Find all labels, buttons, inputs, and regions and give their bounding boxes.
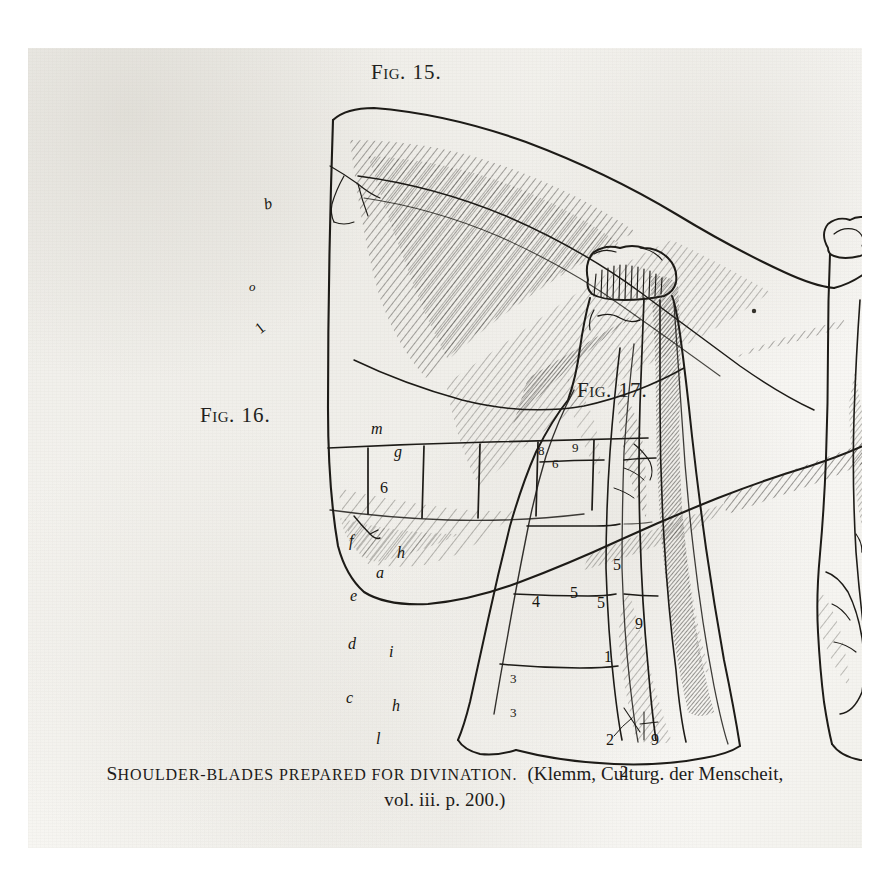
fig16-marker-e: e [350, 588, 357, 604]
figure-caption: SHOULDER-BLADES PREPARED FOR DIVINATION.… [28, 763, 862, 811]
caption-line-2: vol. iii. p. 200.) [28, 789, 862, 811]
fig16-label-initial: F [200, 403, 212, 427]
fig17-marker-5-right: 5 [597, 595, 605, 611]
fig15-label-initial: F [371, 60, 383, 84]
fig17-marker-5-upper: 5 [613, 557, 621, 573]
fig17-label-smallcaps: IG [589, 384, 606, 400]
fig17-marker-1: 1 [604, 649, 612, 665]
figure-label-15: FIG. 15. [371, 60, 442, 85]
fig17-drawing [817, 212, 862, 770]
figure-label-16: FIG. 16. [200, 403, 271, 428]
fig17-label-initial: F [577, 378, 589, 402]
fig16-marker-6: 6 [380, 480, 388, 496]
fig17-marker-3-lower: 3 [510, 706, 517, 719]
fig15-label-number: . 15. [400, 60, 442, 84]
fig16-marker-a: a [376, 565, 384, 581]
fig16-label-number: . 16. [229, 403, 271, 427]
fig17-marker-6: 6 [552, 457, 559, 470]
fig16-label-smallcaps: IG [212, 409, 229, 425]
fig17-marker-9-mid: 9 [635, 616, 643, 632]
illustration-page: FIG. 15. FIG. 16. FIG. 17. b o 1 m g 6 f… [0, 0, 889, 881]
fig16-marker-h-lower: h [392, 698, 400, 714]
fig17-marker-2-upper: 2 [606, 732, 614, 748]
caption-line-1: SHOULDER-BLADES PREPARED FOR DIVINATION.… [28, 763, 862, 785]
fig16-marker-m: m [371, 421, 383, 437]
fig17-marker-9-top: 9 [572, 441, 579, 454]
fig15-drawing [328, 108, 862, 604]
figure-label-17: FIG. 17. [577, 378, 648, 403]
scanned-paper-area: FIG. 15. FIG. 16. FIG. 17. b o 1 m g 6 f… [28, 48, 862, 848]
engraving-artwork [28, 48, 862, 848]
fig16-marker-c: c [346, 690, 353, 706]
caption-source-line-2: vol. iii. p. 200.) [384, 789, 505, 810]
fig16-marker-i: i [389, 644, 393, 660]
fig16-marker-f: f [349, 533, 353, 549]
fig16-marker-g: g [394, 444, 402, 460]
fig16-marker-d: d [348, 636, 356, 652]
caption-title-rest: HOULDER-BLADES PREPARED FOR DIVINATION. [118, 766, 518, 783]
fig15-marker-o: o [249, 280, 256, 293]
fig17-marker-4: 4 [532, 594, 540, 610]
fig17-marker-5-left: 5 [570, 585, 578, 601]
fig17-label-number: . 17. [606, 378, 648, 402]
fig16-marker-h-upper: h [397, 545, 405, 561]
fig15-label-smallcaps: IG [383, 66, 400, 82]
fig17-marker-8: 8 [538, 444, 545, 457]
fig17-marker-9-lower: 9 [651, 732, 659, 748]
fig16-marker-l: l [376, 731, 380, 747]
caption-source-line-1: (Klemm, Culturg. der Menscheit, [517, 763, 783, 784]
caption-title-initial: S [107, 763, 118, 784]
fig17-marker-3-upper: 3 [510, 672, 517, 685]
